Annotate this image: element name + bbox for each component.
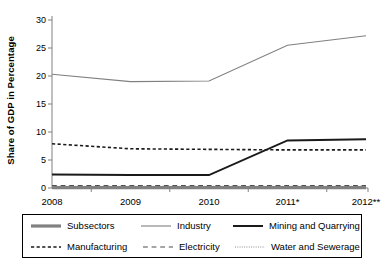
y-axis-title-text: Share of GDP in Percentage <box>5 36 16 165</box>
x-axis-tick-labels: 2008200920102011*2012** <box>20 196 372 212</box>
legend-swatch <box>143 242 173 252</box>
legend-label: Manufacturing <box>67 242 127 252</box>
x-axis-tick-label: 2010 <box>198 196 219 207</box>
legend-swatch <box>31 221 61 231</box>
legend-item[interactable]: Electricity <box>143 242 220 252</box>
y-axis-title: Share of GDP in Percentage <box>0 0 20 200</box>
legend-row: ManufacturingElectricityWater and Sewera… <box>23 236 361 258</box>
legend-swatch <box>235 242 265 252</box>
legend-label: Industry <box>177 221 211 231</box>
x-axis-tick-label: 2008 <box>41 196 62 207</box>
chart-plot-svg <box>20 8 372 200</box>
legend-swatch <box>141 221 171 231</box>
legend-label: Subsectors <box>67 221 115 231</box>
legend-item[interactable]: Subsectors <box>31 221 115 231</box>
series-line-3 <box>52 144 366 150</box>
legend-item[interactable]: Manufacturing <box>31 242 127 252</box>
legend-row: SubsectorsIndustryMining and Quarrying <box>23 215 361 237</box>
legend-label: Mining and Quarrying <box>269 221 360 231</box>
series-line-2 <box>52 139 366 175</box>
x-axis-tick-label: 2012** <box>352 196 381 207</box>
legend-label: Water and Sewerage <box>271 242 360 252</box>
x-axis-tick-label: 2011* <box>275 196 299 207</box>
legend-swatch <box>233 221 263 231</box>
legend-item[interactable]: Mining and Quarrying <box>233 221 360 231</box>
legend-swatch <box>31 242 61 252</box>
chart-legend: SubsectorsIndustryMining and Quarrying M… <box>22 214 362 258</box>
legend-item[interactable]: Water and Sewerage <box>235 242 360 252</box>
legend-item[interactable]: Industry <box>141 221 211 231</box>
x-axis-tick-label: 2009 <box>120 196 141 207</box>
chart-container: Share of GDP in Percentage 051015202530 … <box>0 0 384 269</box>
plot-area: 051015202530 <box>20 8 372 200</box>
legend-label: Electricity <box>179 242 220 252</box>
series-line-1 <box>52 36 366 82</box>
